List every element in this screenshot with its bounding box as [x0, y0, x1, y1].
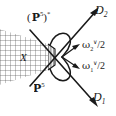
d1-subscript: 1	[102, 97, 106, 106]
cone-region-x	[0, 24, 54, 92]
omega2-subscript: 2	[90, 45, 93, 52]
omega1-subscript: 1	[90, 66, 93, 73]
d2-base: D	[95, 3, 104, 17]
exponent-5: 5	[41, 81, 44, 88]
omega-base: ω	[82, 39, 90, 50]
omega1-divisor: /2	[97, 60, 105, 71]
label-d1: D1	[93, 91, 105, 103]
label-variety-x: X	[20, 52, 27, 63]
d1-base: D	[93, 90, 102, 104]
bb-p-symbol: P	[32, 83, 41, 94]
math-figure: (P5)* P5 X D2 D1 ω2∨/2 ω1∨/2	[0, 0, 116, 116]
label-d2: D2	[95, 4, 107, 16]
label-projective-space: P5	[32, 83, 45, 94]
label-omega1: ω1∨/2	[82, 61, 105, 71]
star-symbol: *	[47, 10, 50, 17]
omega1-ray	[62, 57, 80, 69]
bb-p-symbol: P	[31, 12, 40, 23]
omega-base: ω	[82, 60, 90, 71]
label-dual-projective-space: (P5)*	[27, 12, 50, 23]
label-omega2: ω2∨/2	[82, 40, 105, 50]
omega2-divisor: /2	[97, 39, 105, 50]
d2-subscript: 2	[104, 10, 108, 19]
